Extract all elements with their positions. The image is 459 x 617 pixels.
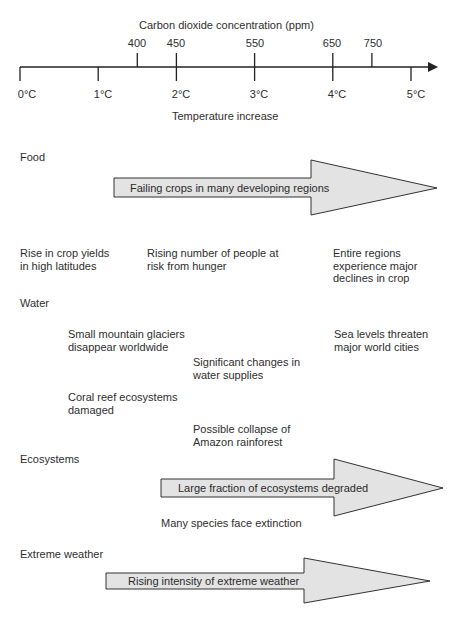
ecosystems-impact: Many species face extinction xyxy=(161,517,302,530)
axis-arrowhead xyxy=(428,62,438,72)
food-impact: Rising number of people at risk from hun… xyxy=(147,247,278,272)
section-title-extreme-weather: Extreme weather xyxy=(20,548,103,561)
co2-axis-title: Carbon dioxide concentration (ppm) xyxy=(139,19,314,32)
temp-tick-label: 3°C xyxy=(250,88,268,100)
temp-tick-label: 2°C xyxy=(172,88,190,100)
food-impact: Rise in crop yields in high latitudes xyxy=(20,247,109,272)
temp-tick-label: 1°C xyxy=(94,88,112,100)
food-arrow-label: Failing crops in many developing regions xyxy=(130,182,329,194)
water-impact: Sea levels threaten major world cities xyxy=(334,328,428,353)
temp-tick-label: 4°C xyxy=(328,88,346,100)
co2-tick-label: 650 xyxy=(323,37,341,49)
weather-arrow-label: Rising intensity of extreme weather xyxy=(128,575,299,587)
ecosystems-arrow-label: Large fraction of ecosystems degraded xyxy=(178,482,368,494)
water-impact: Small mountain glaciers disappear worldw… xyxy=(68,328,185,353)
water-impact: Possible collapse of Amazon rainforest xyxy=(193,423,290,448)
temp-tick-label: 0°C xyxy=(18,88,36,100)
section-title-food: Food xyxy=(20,151,45,164)
co2-tick-label: 550 xyxy=(246,37,264,49)
section-title-water: Water xyxy=(20,297,49,310)
co2-tick-label: 450 xyxy=(167,37,185,49)
food-impact: Entire regions experience major declines… xyxy=(333,247,417,285)
co2-tick-label: 750 xyxy=(364,37,382,49)
section-title-ecosystems: Ecosystems xyxy=(20,453,79,466)
temp-tick-label: 5°C xyxy=(407,88,425,100)
water-impact: Coral reef ecosystems damaged xyxy=(68,391,177,416)
temperature-axis-title: Temperature increase xyxy=(172,110,278,123)
co2-tick-label: 400 xyxy=(128,37,146,49)
water-impact: Significant changes in water supplies xyxy=(193,356,300,381)
